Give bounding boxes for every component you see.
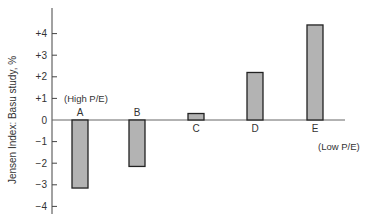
bar-e [307,25,323,120]
y-tick-label: +4 [36,28,48,39]
annotation-high-pe: (High P/E) [64,93,108,104]
y-tick-label: 0 [41,115,47,126]
y-axis-label: Jensen Index: Basu study, % [7,56,18,184]
category-label: A [77,107,84,118]
y-tick-label: −1 [36,136,48,147]
y-tick-label: −2 [36,158,48,169]
bars [72,25,323,188]
bar-b [129,120,145,166]
y-tick-label: +3 [36,50,48,61]
bar-c [188,114,204,120]
category-label: E [312,123,319,134]
category-label: B [134,107,141,118]
y-tick-label: +1 [36,93,48,104]
category-label: D [251,123,258,134]
bar-a [72,120,88,188]
bar-d [247,72,263,120]
y-tick-label: +2 [36,71,48,82]
y-tick-label: −4 [36,201,48,212]
annotation-low-pe: (Low P/E) [318,141,360,152]
y-tick-label: −3 [36,179,48,190]
bar-chart: +4+3+2+10−1−2−3−4 ABCDE Jensen Index: Ba… [0,0,368,222]
category-label: C [192,123,199,134]
